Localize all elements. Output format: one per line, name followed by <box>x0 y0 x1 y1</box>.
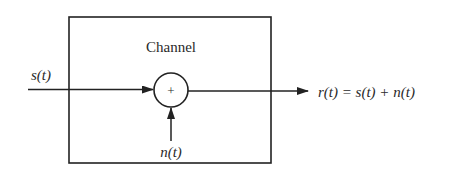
channel-diagram: Channel s(t) + n(t) r(t) = s(t) + n(t) <box>0 0 467 172</box>
noise-label: n(t) <box>160 144 182 161</box>
adder-plus-icon: + <box>167 83 174 98</box>
input-signal-label: s(t) <box>31 67 51 84</box>
channel-label: Channel <box>146 39 196 55</box>
output-signal-label: r(t) = s(t) + n(t) <box>318 84 415 101</box>
